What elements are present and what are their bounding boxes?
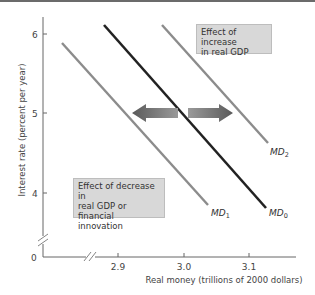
annotation-decrease-gdp: Effect of decrease in real GDP or financ… [73, 178, 165, 218]
annotation-line: Effect of increase [201, 27, 267, 47]
x-tick-2-9: 2.9 [111, 262, 126, 272]
md0-label: MD0 [269, 208, 288, 220]
x-tick-3-1: 3.1 [242, 262, 256, 272]
y-tick-4: 4 [32, 189, 38, 199]
y-tick-5: 5 [32, 109, 38, 119]
y-axis-title: Interest rate (percent per year) [17, 63, 27, 196]
y-tick-6: 6 [32, 30, 38, 40]
y-axis: 6 5 4 0 Interest rate (percent per year) [17, 17, 48, 263]
arrow-left-icon [132, 104, 178, 122]
annotation-increase-gdp: Effect of increase in real GDP [196, 24, 272, 54]
annotation-line: in real GDP [201, 47, 267, 57]
arrow-right-icon [188, 104, 233, 122]
md2-label: MD2 [270, 147, 289, 159]
annotation-line: innovation [78, 221, 160, 231]
x-tick-3-0: 3.0 [177, 262, 192, 272]
x-axis-title: Real money (trillions of 2000 dollars) [145, 275, 302, 285]
md1-label: MD1 [211, 208, 230, 220]
annotation-line: Effect of decrease in [78, 181, 160, 201]
annotation-line: real GDP or financial [78, 201, 160, 221]
x-axis: 2.9 3.0 3.1 Real money (trillions of 200… [43, 252, 303, 285]
origin-label: 0 [31, 253, 37, 263]
